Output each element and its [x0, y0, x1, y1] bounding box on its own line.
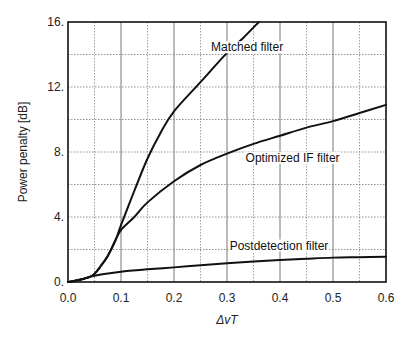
y-axis-label: Power penalty [dB] [16, 102, 30, 203]
y-tick-label: 16. [47, 15, 64, 29]
y-tick-label: 12. [47, 80, 64, 94]
y-tick-label: 4. [54, 210, 64, 224]
power-penalty-chart: 0.00.10.20.30.40.50.6 0.4.8.12.16. Match… [0, 0, 413, 338]
x-tick-label: 0.4 [272, 291, 289, 305]
x-axis-ticks: 0.00.10.20.30.40.50.6 [60, 291, 395, 305]
series-label: Matched filter [211, 40, 283, 54]
x-tick-label: 0.0 [60, 291, 77, 305]
y-tick-label: 0. [54, 275, 64, 289]
series-label: Optimized IF filter [246, 151, 340, 165]
y-tick-label: 8. [54, 145, 64, 159]
x-tick-label: 0.1 [113, 291, 130, 305]
series-labels: Matched filterOptimized IF filterPostdet… [210, 40, 340, 252]
x-tick-label: 0.2 [166, 291, 183, 305]
series-label: Postdetection filter [230, 239, 329, 253]
x-tick-label: 0.3 [219, 291, 236, 305]
x-tick-label: 0.6 [378, 291, 395, 305]
y-axis-ticks: 0.4.8.12.16. [47, 15, 64, 289]
x-tick-label: 0.5 [325, 291, 342, 305]
x-axis-label: ΔvT [215, 313, 239, 327]
